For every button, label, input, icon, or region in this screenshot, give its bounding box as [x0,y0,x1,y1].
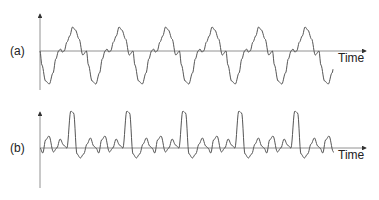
waveform-diagram [0,0,379,200]
panel-b-label: (b) [10,141,25,155]
panel-b-waveform [40,111,334,158]
panel-b-axes [40,112,366,188]
panel-b-time-label: Time [338,148,364,162]
panel-a-waveform [40,27,333,84]
panel-a-time-label: Time [338,51,364,65]
panel-a-axes [40,14,366,90]
panel-a-label: (a) [10,44,25,58]
